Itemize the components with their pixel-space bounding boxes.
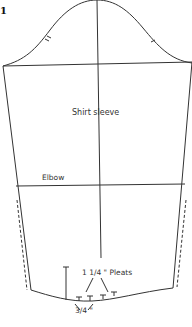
right-adjusted-seam-dashed [177,200,186,287]
figure-number: 1 [0,5,7,16]
sleeve-pattern-drawing [0,0,192,327]
elbow-label: Elbow [42,173,64,182]
pleat-leader-left [86,278,93,292]
center-grainline [97,0,101,258]
left-underarm-seam [3,66,31,290]
back-notch-marks [45,36,51,41]
sleeve-title-label: Shirt sleeve [72,108,119,117]
right-underarm-seam [173,62,192,288]
pleat-spacing-label: 3/4 " [75,306,93,315]
elbow-line [16,184,185,186]
pleats-label: 1 1/4 " Pleats [82,268,132,277]
pleat-marks [76,292,117,301]
sleeve-pattern-diagram: 1 Shirt sleeve Elbow 1 1/4 " Pleats 3/4 … [0,0,192,327]
pleat-leader-right [101,278,108,292]
